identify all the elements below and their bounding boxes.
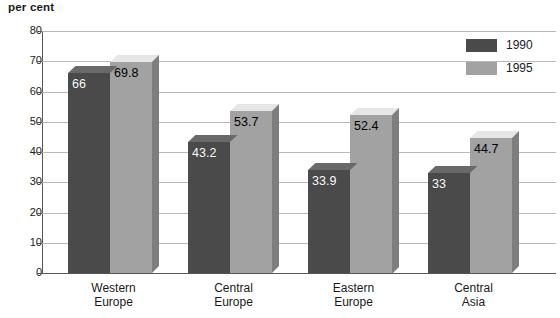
y-axis-tick <box>37 213 42 214</box>
legend-swatch <box>466 39 497 52</box>
x-axis-label-line: Western <box>50 281 177 295</box>
bar[interactable]: 44.7 <box>470 138 512 273</box>
bar[interactable]: 52.4 <box>350 115 392 274</box>
x-axis-label-line: Central <box>410 281 537 295</box>
bar[interactable]: 33.9 <box>308 170 350 273</box>
bar-side-face <box>392 108 399 274</box>
bar-group: 6669.8 <box>68 31 159 273</box>
bar-group: 43.253.7 <box>188 31 279 273</box>
bar-chart: per cent 01020304050607080 6669.843.253.… <box>0 0 560 318</box>
y-axis-tick <box>37 61 42 62</box>
bar[interactable]: 33 <box>428 173 470 273</box>
bar-face <box>110 62 152 273</box>
bar-value-label: 44.7 <box>474 143 498 156</box>
legend-label: 1995 <box>506 62 533 75</box>
y-axis-tick <box>37 243 42 244</box>
x-axis-label-line: Europe <box>50 295 177 309</box>
x-axis-line <box>42 273 556 274</box>
bar-face <box>470 138 512 273</box>
legend-item[interactable]: 1995 <box>466 59 552 77</box>
legend-swatch <box>466 62 497 75</box>
bar-top-face <box>428 166 478 173</box>
legend-label: 1990 <box>506 39 533 52</box>
y-axis-tick <box>37 152 42 153</box>
bar-value-label: 53.7 <box>234 116 258 129</box>
bar-top-face <box>68 66 118 73</box>
x-axis-label-line: Europe <box>170 295 297 309</box>
bar-top-face <box>308 163 358 170</box>
bar-group: 33.952.4 <box>308 31 399 273</box>
bar-value-label: 33.9 <box>312 175 336 188</box>
bar-value-label: 66 <box>72 78 86 91</box>
bar-side-face <box>272 104 279 273</box>
bar[interactable]: 69.8 <box>110 62 152 273</box>
bar-face <box>68 73 110 273</box>
y-axis-ticks: 01020304050607080 <box>0 0 42 318</box>
y-axis-tick <box>37 182 42 183</box>
bar-face <box>350 115 392 274</box>
y-axis-tick <box>37 92 42 93</box>
y-axis-tick <box>37 273 42 274</box>
bar[interactable]: 66 <box>68 73 110 273</box>
x-axis-label: CentralEurope <box>170 281 297 309</box>
x-axis-label: CentralAsia <box>410 281 537 309</box>
bar-value-label: 33 <box>432 178 446 191</box>
x-axis-label-line: Europe <box>290 295 417 309</box>
x-axis-label-line: Asia <box>410 295 537 309</box>
bar-side-face <box>512 131 519 273</box>
bar-top-face <box>188 135 238 142</box>
x-axis-label: EasternEurope <box>290 281 417 309</box>
bar-value-label: 69.8 <box>114 67 138 80</box>
bar-value-label: 43.2 <box>192 147 216 160</box>
x-axis-label-line: Central <box>170 281 297 295</box>
y-axis-tick <box>37 31 42 32</box>
bar[interactable]: 43.2 <box>188 142 230 273</box>
x-axis-label: WesternEurope <box>50 281 177 309</box>
bar-face <box>188 142 230 273</box>
x-axis-label-line: Eastern <box>290 281 417 295</box>
legend: 19901995 <box>466 36 552 82</box>
bar-side-face <box>152 55 159 273</box>
y-axis-tick <box>37 122 42 123</box>
bar-value-label: 52.4 <box>354 120 378 133</box>
legend-item[interactable]: 1990 <box>466 36 552 54</box>
